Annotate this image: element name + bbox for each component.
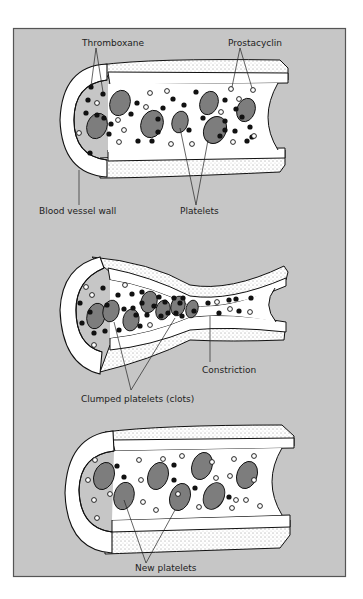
label-blood-vessel-wall: Blood vessel wall bbox=[39, 206, 116, 216]
label-platelets: Platelets bbox=[180, 206, 219, 216]
platelet-diagram: Thromboxane Prostacyclin Blood vessel wa… bbox=[0, 0, 363, 599]
label-clumped-platelets: Clumped platelets (clots) bbox=[81, 394, 194, 404]
label-new-platelets: New platelets bbox=[135, 563, 197, 573]
label-thromboxane: Thromboxane bbox=[81, 38, 144, 48]
label-constriction: Constriction bbox=[202, 365, 256, 375]
label-prostacyclin: Prostacyclin bbox=[228, 38, 282, 48]
